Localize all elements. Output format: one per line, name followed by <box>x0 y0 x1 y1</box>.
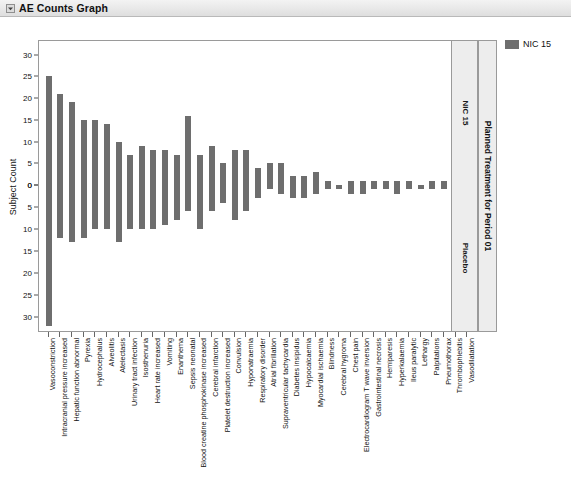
bar <box>197 155 203 185</box>
bar <box>267 163 273 185</box>
x-axis-tick-label: Urinary tract infection <box>132 338 137 406</box>
bar <box>104 124 110 185</box>
bar <box>46 185 52 326</box>
bar <box>394 185 400 194</box>
bar <box>418 185 424 189</box>
bar <box>313 172 319 185</box>
x-axis-tick-label: Hypocalcaemia <box>306 338 311 387</box>
bar <box>243 150 249 185</box>
y-axis-tick-mark <box>34 141 38 142</box>
x-axis-tick-label: Atelectasis <box>120 338 125 373</box>
x-axis-tick-label: Intracranial pressure increased <box>62 338 67 437</box>
bar <box>255 185 261 198</box>
bar <box>104 185 110 229</box>
x-axis-tick-label: Pyrexia <box>85 338 90 362</box>
x-axis-tick-label: Vomiting <box>167 338 172 366</box>
bar <box>313 185 319 194</box>
y-axis-tick-mark <box>34 207 38 208</box>
plot-panel-placebo <box>38 185 478 332</box>
y-axis-tick-mark <box>34 251 38 252</box>
x-axis-tick-mark <box>141 332 142 337</box>
y-axis-tick-mark <box>34 185 38 186</box>
x-axis-tick-label: Heart rate increased <box>155 338 160 403</box>
bar <box>162 185 168 225</box>
y-axis-label: Subject Count <box>6 77 20 297</box>
bar <box>57 185 63 238</box>
x-axis-tick-label: Alveolitis <box>109 338 114 366</box>
bar <box>325 185 331 189</box>
page-title: AE Counts Graph <box>19 2 108 14</box>
x-axis-tick-mark <box>327 332 328 337</box>
x-axis-tick-label: Isosthenuria <box>143 338 148 377</box>
x-axis-tick-mark <box>71 332 72 337</box>
x-axis-labels: VasoconstrictionIntracranial pressure in… <box>38 338 478 488</box>
bar-group-nic15 <box>39 41 477 185</box>
bar <box>255 168 261 185</box>
bar <box>150 185 156 229</box>
x-axis-tick-label: Vasodilatation <box>469 338 474 383</box>
bar <box>174 185 180 220</box>
bar <box>301 185 307 198</box>
x-axis-tick-mark <box>466 332 467 337</box>
x-axis-tick-mark <box>199 332 200 337</box>
bar <box>278 163 284 185</box>
bar <box>290 185 296 198</box>
x-axis-tick-label: Pneumothorax <box>446 338 451 385</box>
x-axis-tick-label: Thrombophlebitis <box>457 338 462 393</box>
x-axis-tick-mark <box>362 332 363 337</box>
bar <box>127 185 133 229</box>
bar <box>301 176 307 185</box>
x-axis-tick-mark <box>338 332 339 337</box>
bar <box>69 185 75 242</box>
bar <box>290 176 296 185</box>
x-axis-tick-mark <box>257 332 258 337</box>
bar <box>162 150 168 185</box>
x-axis-tick-mark <box>222 332 223 337</box>
x-axis-tick-label: Blindness <box>329 338 334 369</box>
x-axis-tick-mark <box>187 332 188 337</box>
bar <box>81 120 87 185</box>
x-axis-tick-label: Hydrocephalus <box>97 338 102 386</box>
x-axis-tick-mark <box>176 332 177 337</box>
bar <box>174 155 180 185</box>
x-axis-tick-mark <box>118 332 119 337</box>
bar <box>197 185 203 229</box>
bar <box>185 185 191 211</box>
panel-strip-nic15: NIC 15 <box>451 40 478 185</box>
x-axis-tick-mark <box>280 332 281 337</box>
bar-group-placebo <box>39 185 477 331</box>
x-axis-tick-label: Ileus paralytic <box>411 338 416 382</box>
x-axis-tick-label: Sepsis neonatal <box>190 338 195 389</box>
x-axis-tick-mark <box>455 332 456 337</box>
bar <box>57 94 63 185</box>
x-axis-tick-label: Respiratory disorder <box>260 338 265 403</box>
x-axis-tick-label: Hepatic function abnormal <box>74 338 79 422</box>
y-axis-tick-mark <box>34 273 38 274</box>
y-axis-tick-mark <box>34 119 38 120</box>
x-axis-tick-label: Lethargy <box>422 338 427 366</box>
x-axis-tick-label: Hemiparesis <box>387 338 392 378</box>
x-axis-tick-label: Cerebral infarction <box>213 338 218 397</box>
bar <box>220 163 226 185</box>
y-axis-tick-mark <box>34 229 38 230</box>
bar <box>371 185 377 189</box>
y-axis-tick-mark <box>34 317 38 318</box>
triangle-down-icon[interactable] <box>5 3 16 14</box>
x-axis-tick-label: Platelet destruction increased <box>225 338 230 432</box>
x-axis-tick-mark <box>303 332 304 337</box>
x-axis-tick-mark <box>59 332 60 337</box>
x-axis-tick-mark <box>443 332 444 337</box>
x-axis-tick-mark <box>315 332 316 337</box>
bar <box>220 185 226 203</box>
panel-strip-title-box: Planned Treatment for Period 01 <box>478 40 497 332</box>
y-axis-tick-mark <box>34 76 38 77</box>
bar <box>209 146 215 185</box>
bar <box>69 102 75 185</box>
x-axis-tick-label: Supraventricular tachycardia <box>283 338 288 429</box>
x-axis-tick-label: Blood creatine phosphokinase increased <box>201 338 206 467</box>
panel-strip-label-nic15: NIC 15 <box>460 101 469 126</box>
x-axis-tick-mark <box>83 332 84 337</box>
x-axis-tick-label: Enanthema <box>178 338 183 375</box>
legend-label-count: NIC 15 <box>523 39 551 49</box>
bar <box>92 120 98 185</box>
